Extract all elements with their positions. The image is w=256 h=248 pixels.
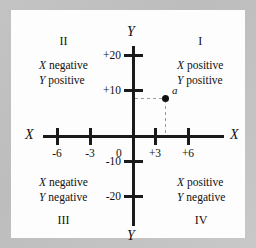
quadrant-4-block: X positive Y negative IV	[177, 175, 225, 229]
quadrant-3-block: X negative Y negative III	[39, 175, 88, 229]
quadrant-3-y-word: negative	[48, 191, 87, 203]
quadrant-2-roman: II	[39, 34, 88, 50]
quadrant-1-roman: I	[177, 34, 223, 50]
quadrant-2-y-var: Y	[39, 74, 45, 86]
y-tick-plus-10	[124, 89, 143, 92]
quadrant-4-x-sign: X positive	[177, 175, 225, 190]
point-a-label: a	[172, 84, 178, 96]
point-a-vertical-leader	[165, 100, 166, 135]
quadrant-3-y-var: Y	[39, 191, 45, 203]
x-tick-plus-6	[187, 128, 190, 145]
quadrant-4-x-word: positive	[187, 176, 223, 188]
y-tick-minus-20	[124, 195, 143, 198]
quadrant-4-roman: IV	[177, 213, 225, 229]
point-a-horizontal-leader	[135, 98, 164, 99]
quadrant-1-x-var: X	[177, 59, 184, 71]
x-tick-label-plus-6: +6	[182, 147, 194, 159]
quadrant-2-y-word: positive	[48, 74, 84, 86]
quadrant-2-block: II X negative Y positive	[39, 34, 88, 88]
y-tick-minus-10	[124, 160, 143, 163]
y-axis-line	[132, 46, 135, 226]
quadrant-4-y-var: Y	[177, 191, 183, 203]
quadrant-1-x-sign: X positive	[177, 58, 223, 73]
y-axis-label-bottom: Y	[127, 228, 135, 244]
y-tick-label-minus-10: -10	[11, 155, 121, 167]
quadrant-4-y-word: negative	[186, 191, 225, 203]
coordinate-plane-figure: X X Y Y -6 -3 +3 +6 0 +20 +10 -10 -20 II…	[0, 0, 256, 248]
point-a-marker	[162, 95, 169, 102]
figure-canvas: X X Y Y -6 -3 +3 +6 0 +20 +10 -10 -20 II…	[11, 10, 245, 238]
quadrant-3-x-var: X	[39, 176, 46, 188]
quadrant-1-x-word: positive	[187, 59, 223, 71]
quadrant-4-x-var: X	[177, 176, 184, 188]
quadrant-4-y-sign: Y negative	[177, 190, 225, 205]
quadrant-2-y-sign: Y positive	[39, 73, 88, 88]
quadrant-3-x-sign: X negative	[39, 175, 88, 190]
quadrant-2-x-sign: X negative	[39, 58, 88, 73]
x-tick-minus-3	[89, 128, 92, 145]
x-tick-label-plus-3: +3	[149, 147, 161, 159]
x-axis-label-left: X	[25, 127, 34, 143]
quadrant-3-roman: III	[39, 213, 88, 229]
x-tick-minus-6	[56, 128, 59, 145]
quadrant-3-y-sign: Y negative	[39, 190, 88, 205]
quadrant-2-x-word: negative	[49, 59, 88, 71]
x-tick-plus-3	[154, 128, 157, 145]
quadrant-2-x-var: X	[39, 59, 46, 71]
y-tick-plus-20	[124, 54, 143, 57]
quadrant-3-x-word: negative	[49, 176, 88, 188]
y-axis-label-top: Y	[127, 24, 135, 40]
quadrant-1-y-sign: Y positive	[177, 73, 223, 88]
quadrant-1-y-word: positive	[186, 74, 222, 86]
x-axis-label-right: X	[230, 127, 239, 143]
quadrant-1-block: I X positive Y positive	[177, 34, 223, 88]
